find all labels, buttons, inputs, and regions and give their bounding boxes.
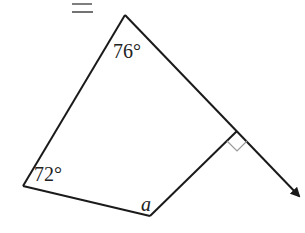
side-top-right-extended xyxy=(125,15,299,196)
right-angle-marker xyxy=(227,141,247,151)
angle-label-bottom: a xyxy=(141,193,151,215)
geometry-diagram: 76° 72° a xyxy=(0,0,305,233)
side-top-left xyxy=(23,15,125,186)
angle-label-left: 72° xyxy=(34,163,62,185)
angle-label-top: 76° xyxy=(113,40,141,62)
side-bottom-foot xyxy=(150,131,237,216)
side-left-bottom xyxy=(23,186,150,216)
cropped-header-text xyxy=(72,4,93,12)
